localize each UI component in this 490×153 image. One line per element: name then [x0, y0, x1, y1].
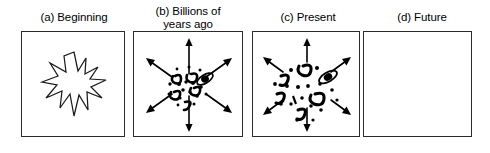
panel-b-caption: (b) Billions of years ago — [127, 5, 249, 30]
panel-c-caption: (c) Present — [248, 11, 368, 24]
starburst-art — [22, 32, 126, 138]
galaxy-cluster-c — [273, 65, 339, 122]
galaxies-arrows-art-b — [134, 32, 244, 138]
panel-c-present — [252, 31, 360, 137]
panel-a-caption: (a) Beginning — [14, 11, 134, 24]
expanding-universe-figure: (a) Beginning (b) Billions of years ago — [0, 0, 490, 153]
panel-d-caption: (d) Future — [362, 11, 482, 24]
starburst-icon — [42, 52, 106, 116]
expansion-arrows-b — [146, 38, 232, 132]
galaxy-cluster-b — [168, 66, 215, 111]
galaxies-arrows-art-c — [253, 32, 361, 138]
panel-b-billions-years-ago — [133, 31, 243, 137]
panel-a-beginning — [21, 31, 125, 137]
panel-d-future — [363, 31, 472, 137]
